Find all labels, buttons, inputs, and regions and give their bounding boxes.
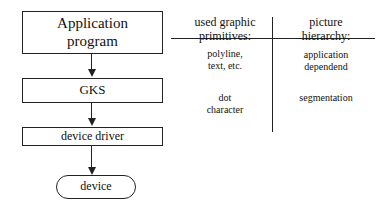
table-cell: polyline, text, etc. [180,48,270,72]
cell-text: dependend [282,61,370,73]
cell-text: segmentation [282,92,370,104]
cell-text: character [180,104,270,116]
table-column-divider [272,17,273,132]
table-cell: dot character [180,92,270,116]
table-header-hierarchy: picture hierarchy: [282,15,370,44]
node-label: device [80,180,111,194]
arrow-down-icon [88,118,96,126]
arrow-down-icon [88,69,96,77]
node-label: device driver [61,130,124,144]
node-label-line1: Application [57,15,128,32]
cell-text: dot [180,92,270,104]
header-text: picture [282,15,370,29]
connector-line [91,54,92,70]
table-cell: segmentation [282,92,370,104]
node-application-program: Application program [22,11,163,54]
node-label-line2: program [67,33,118,50]
node-gks: GKS [22,78,163,103]
table-cell: application dependend [282,49,370,73]
header-text: primitives: [180,29,270,43]
cell-text: application [282,49,370,61]
table-header-primitives: used graphic primitives: [180,15,270,44]
arrow-down-icon [88,167,96,175]
connector-line [91,103,92,119]
node-device: device [56,175,136,199]
header-text: hierarchy: [282,29,370,43]
node-label: GKS [79,83,105,98]
header-text: used graphic [180,15,270,29]
cell-text: text, etc. [180,60,270,72]
cell-text: polyline, [180,48,270,60]
connector-line [91,146,92,168]
node-device-driver: device driver [22,127,163,146]
